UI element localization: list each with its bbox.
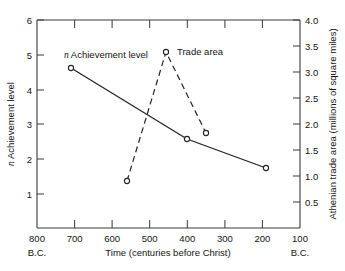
y2-axis-title-group: Athenian trade area (millions of square …	[327, 28, 338, 219]
trade-area-point-3	[203, 130, 208, 135]
bottom-tick-label-500: 500	[142, 233, 158, 244]
left-axis-tick-labels: 6 5 4 3 2 1	[27, 15, 32, 200]
bottom-tick-label-600: 600	[104, 233, 120, 244]
bottom-tick-label-400: 400	[179, 233, 195, 244]
left-tick-label-5: 5	[27, 50, 32, 61]
left-tick-label-6: 6	[27, 15, 32, 26]
y-axis-title-group: n Achievement level	[5, 82, 16, 166]
right-tick-label-4-0: 4.0	[305, 15, 318, 26]
right-axis-ticks	[293, 20, 300, 202]
series-trade-area	[124, 49, 208, 183]
era-label-right: B.C.	[291, 247, 309, 258]
right-tick-label-1-0: 1.0	[305, 171, 318, 182]
trade-area-point-1	[124, 178, 129, 183]
bottom-axis-tick-labels: 800 700 600 500 400 300 200 100	[29, 233, 308, 244]
bottom-tick-label-200: 200	[254, 233, 270, 244]
bottom-tick-label-300: 300	[217, 233, 233, 244]
top-axis-ticks	[75, 20, 263, 28]
left-tick-label-1: 1	[27, 189, 32, 200]
left-tick-label-4: 4	[27, 85, 32, 96]
bottom-tick-label-100: 100	[292, 233, 308, 244]
right-axis-tick-labels: 4.0 3.5 3.0 2.5 2.0 1.5 1.0 0.5	[305, 15, 318, 208]
bottom-tick-label-800: 800	[29, 233, 45, 244]
right-tick-label-3-0: 3.0	[305, 67, 318, 78]
left-tick-label-2: 2	[27, 154, 32, 165]
era-label-left: B.C.	[28, 247, 46, 258]
achievement-annotation: n Achievement level	[64, 49, 148, 60]
trade-annotation: Trade area	[177, 46, 224, 57]
bottom-tick-label-700: 700	[67, 233, 83, 244]
trade-area-line	[127, 52, 206, 181]
chart-container: 6 5 4 3 2 1 4.0 3.5 3.0 2.5 2.0 1.5 1.0	[0, 0, 345, 271]
left-tick-label-3: 3	[27, 119, 32, 130]
trade-area-point-2	[163, 49, 168, 54]
achievement-level-line	[71, 68, 266, 168]
bottom-axis-ticks	[75, 220, 263, 228]
y-axis-title: n Achievement level	[5, 82, 16, 166]
right-tick-label-3-5: 3.5	[305, 41, 318, 52]
achievement-point-1	[68, 65, 73, 70]
achievement-annotation-text: n Achievement level	[64, 49, 148, 60]
achievement-point-3	[263, 165, 268, 170]
x-axis-title: Time (centuries before Christ)	[105, 247, 230, 258]
achievement-point-2	[184, 136, 189, 141]
right-tick-label-2-5: 2.5	[305, 93, 318, 104]
trade-annotation-text: Trade area	[177, 46, 224, 57]
right-tick-label-2-0: 2.0	[305, 119, 318, 130]
right-tick-label-0-5: 0.5	[305, 197, 318, 208]
series-achievement-level	[68, 65, 268, 170]
right-tick-label-1-5: 1.5	[305, 145, 318, 156]
y2-axis-title: Athenian trade area (millions of square …	[327, 28, 338, 219]
left-axis-ticks	[37, 20, 44, 194]
chart-svg: 6 5 4 3 2 1 4.0 3.5 3.0 2.5 2.0 1.5 1.0	[0, 0, 345, 271]
